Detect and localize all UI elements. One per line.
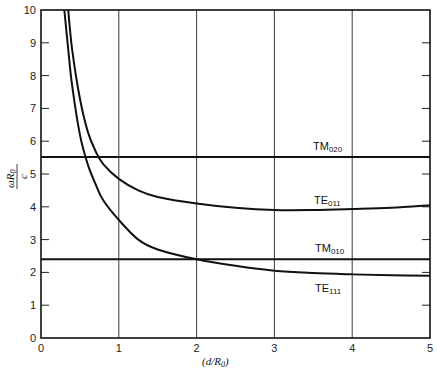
y-tick-label: 6 — [30, 135, 36, 147]
label-tm020: TM020 — [313, 140, 343, 154]
y-tick-label: 5 — [30, 168, 36, 180]
y-axis-label: ωR0 c — [4, 164, 29, 189]
label-tm010: TM010 — [315, 242, 345, 256]
plot-frame — [41, 10, 430, 338]
mode-curves — [41, 10, 430, 276]
y-tick-label: 0 — [30, 332, 36, 344]
y-tick-label: 10 — [24, 4, 36, 16]
x-tick-label: 2 — [194, 342, 200, 354]
x-tick-label: 1 — [116, 342, 122, 354]
y-tick-label: 7 — [30, 102, 36, 114]
y-tick-label: 3 — [30, 234, 36, 246]
y-tick-label: 2 — [30, 266, 36, 278]
x-tick-label: 4 — [349, 342, 355, 354]
x-tick-label: 5 — [427, 342, 433, 354]
x-tick-label: 3 — [271, 342, 277, 354]
tick-labels: 012345678910012345 — [24, 4, 433, 354]
label-te111: TE111 — [315, 282, 342, 296]
y-tick-label: 9 — [30, 37, 36, 49]
label-te011: TE011 — [314, 194, 341, 208]
y-tick-label: 8 — [30, 70, 36, 82]
svg-text:c: c — [17, 174, 29, 179]
curve-te011 — [68, 10, 430, 210]
x-axis-label: (d/R0) — [202, 355, 229, 369]
y-tick-label: 4 — [30, 201, 36, 213]
svg-text:ωR0: ωR0 — [4, 169, 18, 188]
mode-chart: 012345678910012345 TM020 TE011 TM010 TE1… — [0, 0, 437, 371]
y-tick-label: 1 — [30, 299, 36, 311]
x-tick-label: 0 — [38, 342, 44, 354]
